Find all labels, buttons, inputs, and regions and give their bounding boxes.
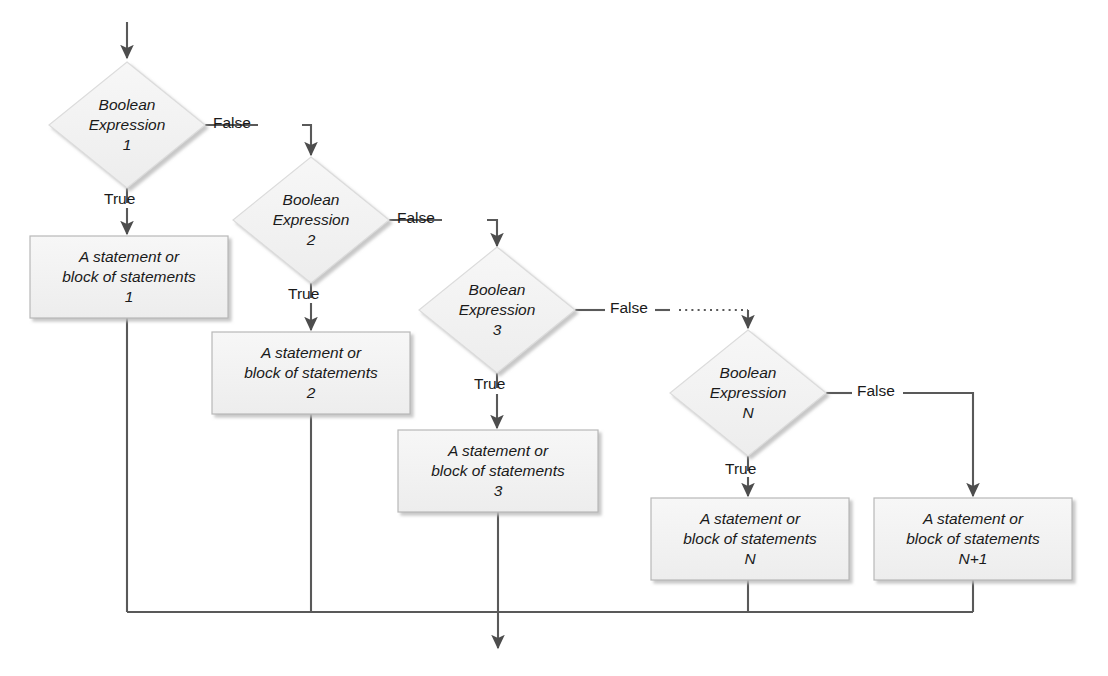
decision-shape-2[interactable] <box>233 157 389 283</box>
process-shape-2[interactable] <box>212 332 410 414</box>
shape-layer <box>30 62 1072 580</box>
edge-d2-false-b <box>487 220 497 246</box>
process-shape-n1[interactable] <box>874 498 1072 580</box>
process-shape-3[interactable] <box>398 430 598 512</box>
edge-dn-false-b <box>903 393 973 496</box>
decision-shape-n[interactable] <box>670 330 826 456</box>
edge-label-true-3: True <box>474 375 505 393</box>
edge-label-true-2: True <box>288 285 319 303</box>
edge-label-false-1: False <box>213 114 251 132</box>
process-shape-n[interactable] <box>651 498 849 580</box>
edge-label-false-2: False <box>397 209 435 227</box>
decision-shape-3[interactable] <box>419 247 575 373</box>
edge-label-true-1: True <box>104 190 135 208</box>
edge-label-false-3: False <box>610 299 648 317</box>
flowchart-canvas: Boolean Expression 1 Boolean Expression … <box>0 0 1108 676</box>
process-shape-1[interactable] <box>30 236 228 318</box>
edge-d1-false-b <box>302 125 311 155</box>
decision-shape-1[interactable] <box>49 62 205 188</box>
flowchart-graphics <box>0 0 1108 676</box>
edge-label-false-n: False <box>857 382 895 400</box>
edge-label-true-n: True <box>725 460 756 478</box>
